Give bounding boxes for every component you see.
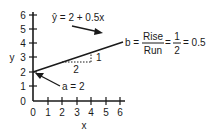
x-tick-label: 1 [45,107,51,118]
x-tick-label: 4 [88,107,94,118]
x-tick-label: 6 [117,107,123,118]
svg-text:1: 1 [174,31,180,42]
y-tick-label: 0 [20,96,26,107]
y-tick-label: 1 [20,81,26,92]
y-tick-label: 3 [20,52,26,63]
y-tick-label: 2 [20,67,26,78]
x-tick-label: 0 [30,107,36,118]
svg-text:2: 2 [174,45,180,56]
y-tick-label: 4 [20,38,26,49]
svg-text:Run: Run [144,45,162,56]
y-tick-label: 5 [20,24,26,35]
x-axis-label: x [82,120,87,131]
x-tick-label: 5 [103,107,109,118]
svg-text:Rise: Rise [143,31,163,42]
y-tick-label: 6 [20,10,26,21]
y-axis-label: y [10,52,15,63]
regression-diagram: 6 5 4 3 2 1 0 0 1 2 3 4 5 6 x y 1 2 ŷ = … [0,0,208,134]
intercept-label: a = 2 [62,81,85,92]
x-tick-label: 3 [74,107,80,118]
slope-formula: b = Rise Run = 1 2 = 0.5 [125,31,206,56]
rise-label: 1 [96,52,102,63]
run-label: 2 [73,64,79,75]
equation-label: ŷ = 2 + 0.5x [52,12,104,23]
intercept-arrowhead-icon [35,73,44,79]
equation-arrowhead-icon [94,28,103,35]
svg-text:b =: b = [125,37,139,48]
svg-text:= 0.5: = 0.5 [183,37,206,48]
x-tick-label: 2 [59,107,65,118]
intercept-arrow [39,75,60,86]
svg-text:=: = [165,37,171,48]
